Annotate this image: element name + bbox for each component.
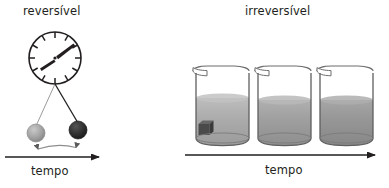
pendulum-ball-light bbox=[27, 124, 45, 142]
beaker-3 bbox=[317, 66, 373, 146]
label-irreversivel: irreversível bbox=[245, 6, 310, 18]
solid-cube-beaker-1 bbox=[199, 124, 210, 135]
pendulum-strings bbox=[36, 84, 78, 126]
axis-label-tempo-left: tempo bbox=[31, 166, 69, 178]
beaker-2 bbox=[255, 66, 311, 146]
left-panel-group bbox=[5, 32, 99, 157]
label-reversivel: reversível bbox=[23, 6, 80, 18]
swing-arrow bbox=[38, 145, 76, 149]
pendulum-ball-dark bbox=[69, 121, 87, 139]
axis-label-tempo-right: tempo bbox=[265, 165, 303, 177]
figure-container: reversível irreversível tempo tempo bbox=[0, 0, 389, 188]
analog-clock bbox=[29, 32, 81, 84]
illustration-canvas bbox=[0, 0, 389, 188]
right-panel-group bbox=[185, 66, 375, 155]
beaker-1 bbox=[193, 66, 249, 146]
